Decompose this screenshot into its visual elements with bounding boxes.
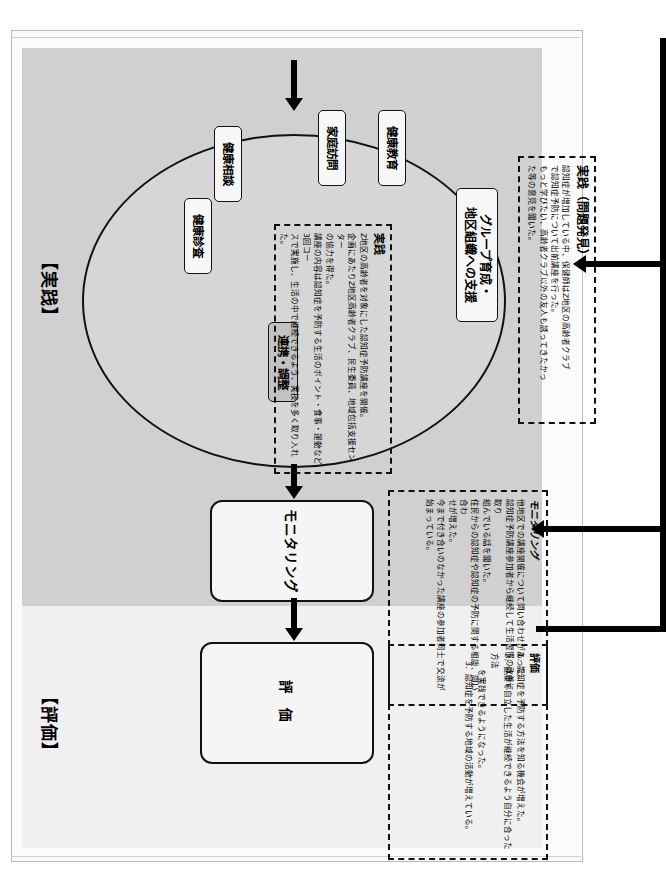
annotation-evaluation-body: 1．認知症を予防する方法を知る機会が増えた。 2．健康で自立した生活が継続できる… [461, 653, 526, 851]
annotation-practice-problem: 実践（問題発見） 認知症が増加している中、保健師はZ地区の高齢者クラブ で認知症… [518, 156, 596, 424]
annotation-practice-problem-body: 認知症が増加している中、保健師はZ地区の高齢者クラブ で認知症予防について出前講… [526, 165, 572, 415]
arrow-right-icon [285, 98, 303, 111]
band-evaluation-label: 【評価】 [38, 688, 63, 760]
top-rule [11, 37, 581, 38]
band-practice-label: 【実践】 [38, 253, 63, 325]
arrow-right-icon [285, 628, 303, 641]
connector-bus-branch-evaluation [536, 626, 666, 632]
rotated-diagram-canvas: 【実践】 【評価】 グループ育成・ 地区組織への支援 健康教育 家庭訪問 健康相… [22, 48, 542, 848]
annotation-evaluation: 評価 1．認知症を予防する方法を知る機会が増えた。 2．健康で自立した生活が継続… [388, 644, 548, 860]
node-health-consultation[interactable]: 健康相談 [214, 126, 242, 202]
monitoring-box[interactable]: モニタリング [210, 500, 374, 602]
arrow-to-evaluation-shaft [291, 598, 297, 630]
arrow-right-icon [285, 486, 303, 499]
entry-arrow-shaft [291, 60, 297, 100]
node-health-education[interactable]: 健康教育 [378, 110, 406, 186]
annotation-practice-detail: 実践 Z地区の高齢者を対象にした認知症予防講座を開催。 企画にあたりZ地区高齢者… [274, 224, 392, 474]
node-health-checkup[interactable]: 健康診査 [184, 198, 212, 274]
evaluation-box[interactable]: 評 価 [200, 642, 374, 764]
connector-bus-horizontal [660, 38, 666, 632]
node-home-visit[interactable]: 家庭訪問 [318, 110, 346, 186]
node-group-development[interactable]: グループ育成・ 地区組織への支援 [456, 188, 498, 322]
annotation-practice-problem-title: 実践（問題発見） [573, 165, 589, 415]
annotation-evaluation-title: 評価 [528, 653, 541, 851]
annotation-practice-detail-title: 実践 [371, 233, 385, 465]
connector-bus-branch-monitoring [536, 526, 666, 532]
annotation-practice-detail-body: Z地区の高齢者を対象にした認知症予防講座を開催。 企画にあたりZ地区高齢者クラブ… [278, 233, 369, 465]
